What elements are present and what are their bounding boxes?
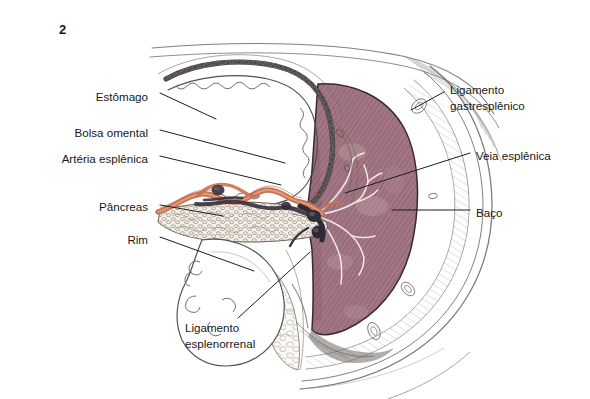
- label-ligamento-esplenorrenal: Ligamento esplenorrenal: [185, 320, 255, 351]
- label-veia-esplenica: Veia esplênica: [476, 148, 551, 164]
- anatomy-figure: 2: [0, 0, 590, 399]
- label-estomago: Estômago: [96, 89, 148, 105]
- label-arteria-esplenica: Artéria esplênica: [62, 151, 148, 167]
- anatomy-illustration: [0, 0, 590, 399]
- label-bolsa-omental: Bolsa omental: [75, 125, 148, 141]
- leader-arteria-esplenica: [160, 156, 281, 185]
- label-baco: Baço: [476, 205, 502, 221]
- leader-bolsa-omental: [160, 130, 285, 163]
- label-ligamento-gastresplenico: Ligamento gastresplênico: [450, 82, 525, 113]
- body-wall-lower-arc: [388, 352, 470, 399]
- label-pancreas: Pâncreas: [99, 199, 148, 215]
- leader-estomago: [160, 93, 216, 119]
- label-rim: Rim: [127, 232, 148, 248]
